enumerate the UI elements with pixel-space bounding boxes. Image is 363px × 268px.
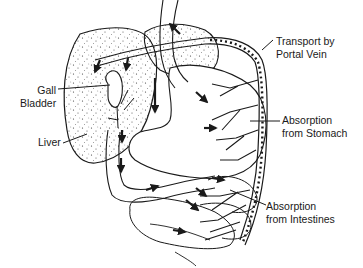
label-line: Absorption <box>266 200 335 213</box>
label-transport-portal-vein: Transport by Portal Vein <box>276 35 335 61</box>
label-line: Portal Vein <box>276 48 335 61</box>
label-gall-bladder: Gall Bladder <box>20 84 56 110</box>
label-line: Bladder <box>20 97 56 110</box>
label-line: from Stomach <box>282 127 347 140</box>
label-line: Transport by <box>276 35 335 48</box>
label-liver: Liver <box>38 136 61 149</box>
label-line: from Intestines <box>266 213 335 226</box>
label-line: Gall <box>20 84 56 97</box>
leader-portal-vein <box>262 40 273 50</box>
label-absorption-stomach: Absorption from Stomach <box>282 114 347 140</box>
label-absorption-intestines: Absorption from Intestines <box>266 200 335 226</box>
portal-system-diagram: Transport by Portal Vein Gall Bladder Li… <box>0 0 363 268</box>
label-line: Absorption <box>282 114 347 127</box>
label-line: Liver <box>38 136 61 149</box>
